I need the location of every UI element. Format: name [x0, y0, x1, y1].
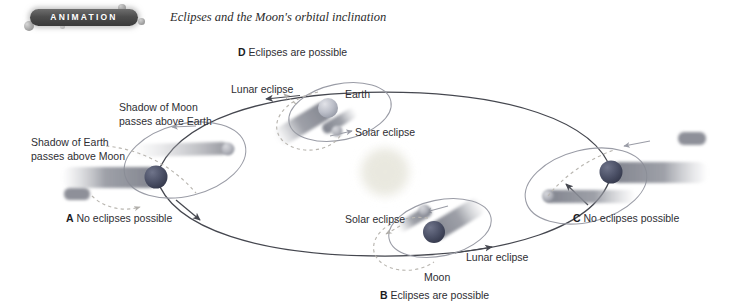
marker-b: B [380, 289, 388, 301]
caption-d: Eclipses are possible [249, 46, 348, 58]
earth-shadow-cone-a [62, 167, 158, 188]
label-solar-eclipse-bottom: Solar eclipse [345, 213, 405, 226]
label-solar-eclipse-top: Solar eclipse [355, 126, 415, 139]
label-earth: Earth [345, 88, 370, 101]
earth-shadow-cone-c [610, 162, 708, 183]
moon-shadow-cone-c [544, 190, 636, 203]
solar-eclipse-text-top: Solar eclipse [355, 126, 415, 138]
caption-c: No eclipses possible [584, 212, 680, 224]
earth-sphere-a [145, 166, 168, 189]
annotation-shadow-of-moon: Shadow of Moon passes above Earth [119, 101, 212, 128]
label-position-a: A No eclipses possible [66, 212, 172, 225]
solar-eclipse-text-bottom: Solar eclipse [345, 213, 405, 225]
earth-sphere-c [600, 161, 623, 184]
diagram-stage: ANIMATION Eclipses and the Moon's orbita… [0, 0, 732, 306]
lunar-eclipse-text-bottom: Lunar eclipse [466, 251, 528, 263]
label-moon: Moon [424, 271, 450, 284]
label-lunar-eclipse-top: Lunar eclipse [231, 83, 293, 96]
moon-sphere-a [222, 143, 235, 156]
earth-text: Earth [345, 88, 370, 100]
caption-b: Eclipses are possible [391, 289, 490, 301]
earth-sphere-d [318, 98, 338, 118]
label-position-d: D Eclipses are possible [238, 46, 347, 59]
annotation-shadow-of-earth: Shadow of Earth passes above Moon [31, 136, 125, 163]
shadow-earth-line1: Shadow of Earth [31, 136, 125, 150]
earth-sphere-b [423, 221, 445, 243]
moon-secondary-c [678, 132, 706, 145]
marker-d: D [238, 46, 246, 58]
label-lunar-eclipse-bottom: Lunar eclipse [466, 251, 528, 264]
moon-shadow-cone-a [132, 142, 228, 158]
caption-a: No eclipses possible [77, 212, 173, 224]
label-position-b: B Eclipses are possible [380, 289, 489, 302]
lunar-eclipse-text-top: Lunar eclipse [231, 83, 293, 95]
marker-a: A [66, 212, 74, 224]
shadow-earth-line2: passes above Moon [31, 150, 125, 164]
sun [358, 145, 412, 199]
moon-text: Moon [424, 271, 450, 283]
moon-sphere-d [332, 126, 343, 137]
moon-secondary-a [64, 188, 90, 200]
label-position-c: C No eclipses possible [573, 212, 679, 225]
shadow-moon-line1: Shadow of Moon [119, 101, 212, 115]
shadow-moon-line2: passes above Earth [119, 115, 212, 129]
moon-sphere-b [419, 205, 430, 216]
marker-c: C [573, 212, 581, 224]
